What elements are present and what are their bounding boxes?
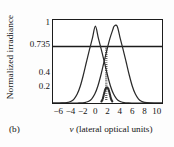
x-tick-label-neg6: −6 [53,106,63,116]
y-tick-label-0735: 0.735 [14,40,50,49]
x-axis-title: ν (lateral optical units) [52,124,170,134]
x-axis-tick-labels: −6−4−20246810 [52,106,163,118]
x-tick-label-0: 0 [93,106,98,116]
plot-canvas [53,20,162,103]
x-tick-label-6: 6 [130,106,135,116]
x-axis-title-text: (lateral optical units) [74,124,153,134]
y-tick-label-1: 1 [14,18,50,27]
series-point-source-2 [53,25,162,103]
x-tick-label-2: 2 [105,106,110,116]
series-point-source-1 [53,26,162,103]
y-tick-label-02: 0.2 [14,82,50,91]
figure-panel-b: Normalized irradiance 1 0.735 0.4 0.2 −6… [0,0,174,147]
plot-area [52,19,163,104]
x-tick-label-10: 10 [152,106,161,116]
x-tick-label-neg4: −4 [66,106,76,116]
x-tick-label-neg2: −2 [78,106,88,116]
x-tick-label-4: 4 [118,106,123,116]
x-tick-label-8: 8 [142,106,147,116]
panel-caption: (b) [9,124,20,134]
y-tick-label-04: 0.4 [14,68,50,77]
